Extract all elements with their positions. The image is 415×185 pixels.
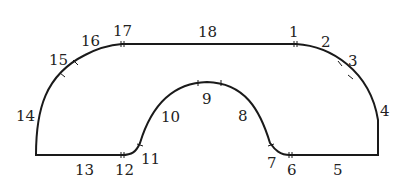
segment-label-18: 18 — [198, 23, 217, 41]
segment-label-9: 9 — [202, 90, 212, 108]
segment-label-14: 14 — [16, 107, 35, 125]
segment-label-15: 15 — [49, 51, 68, 69]
segment-label-3: 3 — [348, 52, 358, 70]
segment-label-13: 13 — [75, 161, 94, 179]
segment-label-16: 16 — [81, 32, 100, 50]
segment-label-12: 12 — [115, 161, 134, 179]
segment-label-5: 5 — [333, 161, 343, 179]
segment-label-6: 6 — [287, 161, 297, 179]
track-diagram: 1 2 3 4 5 6 7 8 9 10 11 12 13 14 15 16 1… — [0, 0, 415, 185]
segment-label-8: 8 — [238, 107, 248, 125]
segment-label-2: 2 — [321, 33, 331, 51]
segment-label-7: 7 — [267, 154, 277, 172]
segment-label-10: 10 — [161, 108, 180, 126]
segment-label-11: 11 — [141, 150, 160, 168]
segment-label-1: 1 — [289, 23, 299, 41]
segment-label-4: 4 — [380, 102, 390, 120]
segment-label-17: 17 — [113, 22, 132, 40]
